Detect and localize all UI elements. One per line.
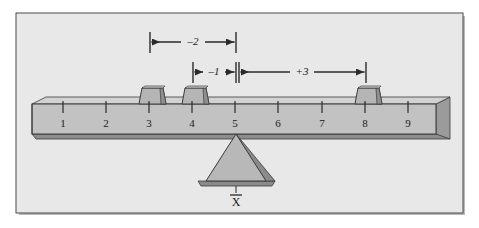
scale-number-8: 8: [362, 117, 368, 129]
beam-bottom-face: [32, 134, 450, 139]
deviation-minus-1-label: –1: [208, 65, 220, 77]
block-at-3: [139, 86, 166, 104]
fulcrum-base-shadow: [198, 181, 275, 186]
block-at-4: [182, 86, 209, 104]
beam-top-chamfer: [32, 97, 450, 104]
scale-number-4: 4: [189, 117, 195, 129]
figure-root: 1 2 3 4 5 6 7 8 9 X: [0, 0, 479, 228]
scale-number-5: 5: [232, 117, 238, 129]
scale-number-3: 3: [146, 117, 152, 129]
block-at-3-top: [142, 86, 165, 88]
block-at-8-top: [358, 86, 381, 88]
deviation-minus-2-label: –2: [187, 35, 200, 47]
beam-group: [32, 97, 450, 139]
mean-symbol-label: X: [232, 195, 241, 209]
scale-number-9: 9: [405, 117, 411, 129]
deviation-plus-3-label: +3: [296, 65, 309, 77]
scale-number-1: 1: [60, 117, 66, 129]
block-at-8: [355, 86, 382, 104]
scale-number-2: 2: [103, 117, 109, 129]
scale-number-7: 7: [319, 117, 325, 129]
balance-beam-diagram: 1 2 3 4 5 6 7 8 9 X: [0, 0, 479, 228]
scale-number-6: 6: [275, 117, 281, 129]
block-at-4-top: [185, 86, 208, 88]
